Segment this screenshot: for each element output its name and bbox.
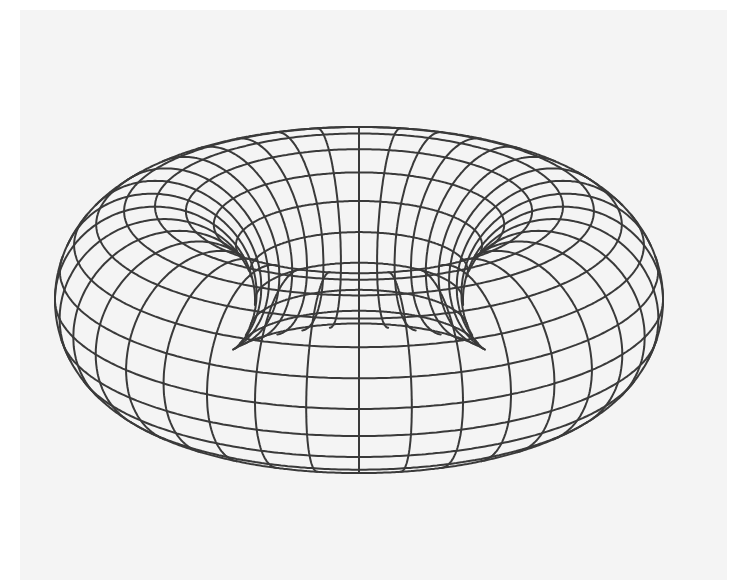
- torus-meridian-lines: [55, 127, 663, 473]
- meridian-line: [442, 402, 463, 467]
- meridian-line: [255, 402, 276, 467]
- meridian-line: [461, 194, 651, 336]
- meridian-line: [481, 394, 511, 461]
- meridian-line: [401, 407, 412, 472]
- meridian-line: [306, 407, 317, 472]
- meridian-line: [207, 394, 237, 461]
- torus-wireframe: [0, 0, 748, 587]
- figure-canvas: [0, 0, 748, 587]
- meridian-line: [67, 194, 257, 336]
